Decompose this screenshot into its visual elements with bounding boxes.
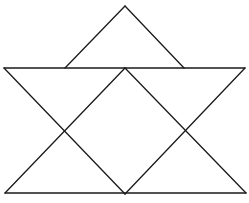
top-triangle-left-edge: [65, 6, 125, 68]
upright-triangle-left-edge: [5, 68, 125, 193]
top-triangle-right-edge: [125, 6, 184, 68]
geometric-figure: [0, 0, 249, 203]
